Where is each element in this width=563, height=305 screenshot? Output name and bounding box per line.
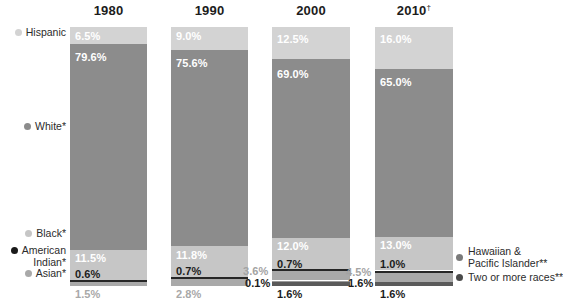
value-american-indian-1990: 0.7% [176,265,201,277]
value-american-indian-1980: 0.6% [75,268,100,280]
two-or-more-races-swatch-icon [456,274,463,281]
value-black-1990: 11.8% [176,249,207,261]
value-hispanic-1990: 9.0% [176,30,201,42]
value-black-2010: 13.0% [380,239,412,251]
segment-asian-1990 [171,279,248,286]
value-hawaiian-2000: 0.1% [245,277,270,289]
segment-white-2010 [375,69,453,237]
value-american-indian-2010: 1.0% [380,258,405,270]
legend-item-black[interactable]: Black* [0,228,66,240]
year-header-2000: 2000 [272,3,350,18]
segment-two-or-more-2000 [272,282,350,286]
legend-label-hawaiian-line1: Hawaiian & [468,245,521,257]
legend-label-asian: Asian* [36,267,66,279]
american-indian-swatch-icon [11,247,18,254]
value-white-1980: 79.6% [75,51,107,63]
year-header-2010: 2010† [375,3,453,18]
year-header-1990: 1990 [171,3,248,18]
legend-item-hispanic[interactable]: Hispanic [0,27,66,39]
legend-label-two-or-more-races: Two or more races** [468,271,563,283]
black-swatch-icon [25,230,32,237]
segment-asian-2000 [272,271,350,280]
hawaiian-pacific-islander-swatch-icon [456,254,463,261]
legend-item-hawaiian-pacific-islander[interactable]: Hawaiian &Pacific Islander** [456,246,547,269]
legend-label-american-indian-line1: American [22,244,66,256]
value-hispanic-1980: 6.5% [75,30,100,42]
legend-label-black: Black* [36,227,66,239]
value-black-1980: 11.5% [75,252,106,264]
value-asian-1990: 2.8% [176,288,201,300]
value-white-2010: 65.0% [380,76,412,88]
value-american-indian-2000: 0.7% [277,258,302,270]
legend-label-hispanic: Hispanic [26,26,66,38]
value-two-2010: 1.6% [348,277,373,289]
legend-item-american-indian[interactable]: American Indian* [0,245,66,269]
segment-asian-2010 [375,273,453,282]
value-two-bottom-2010: 1.6% [380,288,405,300]
segment-white-1980 [70,44,147,250]
segment-two-or-more-2010 [375,282,453,286]
white-swatch-icon [24,123,31,130]
stacked-bar-chart: 1980 1990 2000 2010† 6.5% 79.6% 11.5% 0.… [0,0,563,305]
value-white-2000: 69.0% [277,68,309,80]
bar-column-1980 [70,27,147,286]
value-hispanic-2000: 12.5% [277,33,309,45]
value-asian-1980: 1.5% [75,288,100,300]
legend-label-white: White* [35,120,66,132]
legend-label-hawaiian-line2: Pacific Islander** [468,257,547,269]
hispanic-swatch-icon [15,29,22,36]
value-two-or-more-2000: 1.6% [277,288,302,300]
segment-white-2000 [272,59,350,238]
asian-swatch-icon [25,270,32,277]
legend-item-asian[interactable]: Asian* [0,268,66,280]
segment-asian-1980 [70,282,147,286]
value-asian-2000: 3.6% [243,265,268,277]
value-hispanic-2010: 16.0% [380,33,412,45]
value-black-2000: 12.0% [277,240,309,252]
segment-white-1990 [171,50,248,246]
legend-item-two-or-more-races[interactable]: Two or more races** [456,272,563,284]
legend-item-white[interactable]: White* [0,121,66,133]
value-white-1990: 75.6% [176,57,208,69]
year-header-1980: 1980 [70,3,147,18]
